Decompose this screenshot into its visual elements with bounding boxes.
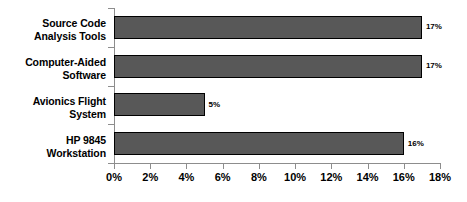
category-label-computer-aided-software: Computer-Aided Software (0, 56, 106, 81)
x-axis-tick-label: 4% (166, 171, 206, 183)
x-axis-tick (404, 164, 405, 169)
category-axis-labels: Source Code Analysis Tools Computer-Aide… (0, 8, 110, 163)
category-label-line: Analysis Tools (0, 30, 106, 43)
category-label-line: Software (0, 69, 106, 82)
bar (114, 55, 422, 78)
category-label-line: Workstation (0, 147, 106, 160)
category-label-line: System (0, 108, 106, 121)
x-axis-tick (440, 164, 441, 169)
x-axis-tick (259, 164, 260, 169)
bar-value-label: 17% (426, 22, 442, 31)
category-label-avionics-flight-system: Avionics Flight System (0, 95, 106, 120)
x-axis-tick-label: 12% (311, 171, 351, 183)
bar (114, 93, 205, 116)
x-axis-tick-label: 10% (275, 171, 315, 183)
bar (114, 16, 422, 39)
x-axis-tick (114, 164, 115, 169)
x-axis-tick-label: 2% (130, 171, 170, 183)
x-axis-tick (186, 164, 187, 169)
bar-chart: Source Code Analysis Tools Computer-Aide… (0, 0, 467, 202)
x-axis-line (114, 163, 441, 164)
x-axis-tick (368, 164, 369, 169)
bar-value-label: 17% (426, 61, 442, 70)
category-label-hp-9845-workstation: HP 9845 Workstation (0, 134, 106, 159)
category-label-line: Computer-Aided (0, 56, 106, 69)
x-axis-tick (295, 164, 296, 169)
category-label-line: HP 9845 (0, 134, 106, 147)
x-axis-tick-label: 14% (348, 171, 388, 183)
x-axis-tick (150, 164, 151, 169)
x-axis-tick (223, 164, 224, 169)
bar-value-label: 16% (408, 139, 424, 148)
x-axis-tick (331, 164, 332, 169)
category-label-line: Avionics Flight (0, 95, 106, 108)
x-axis-tick-label: 8% (239, 171, 279, 183)
category-label-source-code-analysis-tools: Source Code Analysis Tools (0, 17, 106, 42)
x-axis-tick-label: 18% (420, 171, 460, 183)
x-axis-tick-label: 0% (94, 171, 134, 183)
plot-area: 17%17%5%16% (114, 8, 440, 163)
category-label-line: Source Code (0, 17, 106, 30)
x-axis-tick-label: 16% (384, 171, 424, 183)
x-axis-tick-label: 6% (203, 171, 243, 183)
bar (114, 132, 404, 155)
bar-value-label: 5% (209, 100, 221, 109)
